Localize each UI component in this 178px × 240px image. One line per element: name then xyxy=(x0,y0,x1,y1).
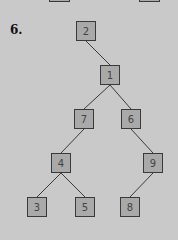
tree-node-3: 3 xyxy=(27,197,47,217)
edge-1-6 xyxy=(110,85,131,109)
edge-1-7 xyxy=(84,85,110,109)
edge-9-8 xyxy=(130,173,153,197)
tree-node-7: 7 xyxy=(74,109,94,129)
edge-2-1 xyxy=(86,41,110,65)
tree-node-2: 2 xyxy=(76,21,96,41)
edge-6-9 xyxy=(131,129,153,153)
edge-7-4 xyxy=(61,129,84,153)
edge-4-3 xyxy=(37,173,61,197)
tree-node-5: 5 xyxy=(75,197,95,217)
tree-node-8: 8 xyxy=(120,197,140,217)
tree-node-4: 4 xyxy=(51,153,71,173)
tree-node-6: 6 xyxy=(121,109,141,129)
tree-node-9: 9 xyxy=(143,153,163,173)
edge-4-5 xyxy=(61,173,85,197)
tree-node-1: 1 xyxy=(100,65,120,85)
